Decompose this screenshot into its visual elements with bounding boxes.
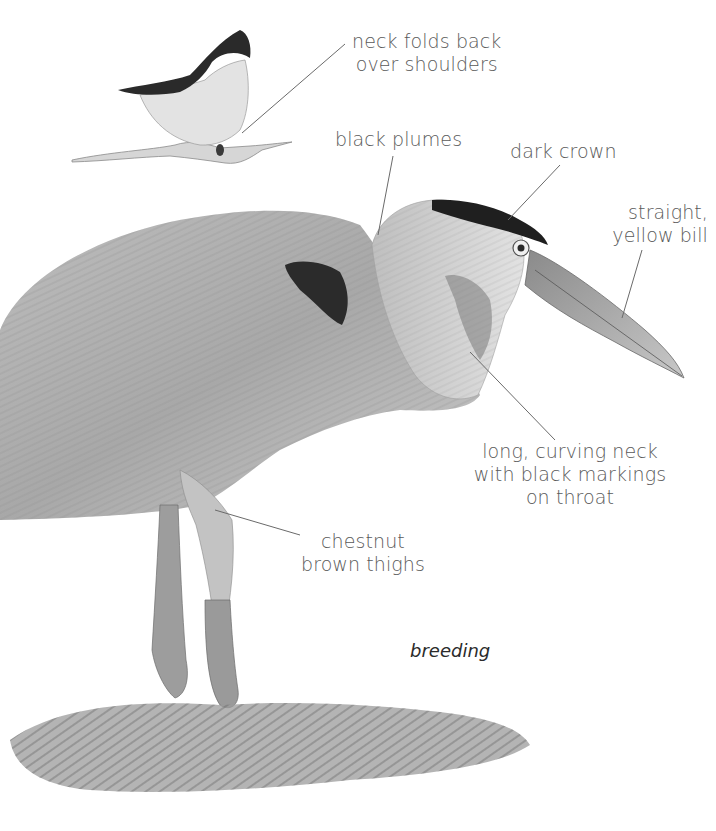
flying-heron (72, 30, 292, 163)
leader-dark-crown (508, 165, 560, 220)
label-neck-line2: with black markings (470, 463, 670, 486)
label-bill-line1: straight, (612, 201, 708, 224)
heron-artwork (0, 0, 716, 831)
label-neck-folds-line1: neck folds back (352, 30, 501, 53)
label-dark-crown-line1: dark crown (510, 140, 617, 163)
label-black-plumes-line1: black plumes (335, 128, 462, 151)
label-thighs-line2: brown thighs (298, 553, 428, 576)
label-thighs-line1: chestnut (298, 530, 428, 553)
caption-breeding: breeding (410, 640, 490, 661)
label-bill-line2: yellow bill (612, 224, 708, 247)
label-neck-line3: on throat (470, 486, 670, 509)
label-dark-crown: dark crown (510, 140, 617, 163)
label-neck: long, curving neck with black markings o… (470, 440, 670, 509)
label-neck-folds-line2: over shoulders (352, 53, 501, 76)
leader-neck (470, 352, 555, 440)
heron-illustration-diagram: neck folds back over shoulders black plu… (0, 0, 716, 831)
label-neck-folds: neck folds back over shoulders (352, 30, 501, 76)
label-bill: straight, yellow bill (612, 201, 708, 247)
label-neck-line1: long, curving neck (470, 440, 670, 463)
label-black-plumes: black plumes (335, 128, 462, 151)
label-thighs: chestnut brown thighs (298, 530, 428, 576)
leader-bill (622, 250, 642, 318)
grass-base (10, 703, 530, 792)
leader-neck-folds (242, 44, 345, 133)
